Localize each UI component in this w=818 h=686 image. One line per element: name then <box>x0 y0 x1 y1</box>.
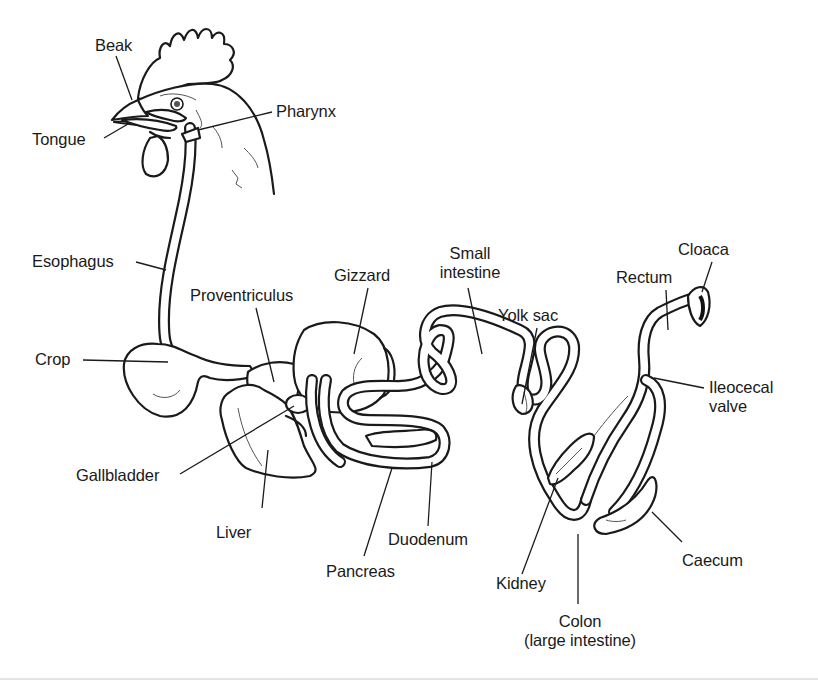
label-esophagus: Esophagus <box>32 252 114 271</box>
leader-caecum <box>652 512 682 542</box>
label-pancreas: Pancreas <box>326 562 395 581</box>
label-colon: Colon (large intestine) <box>510 612 650 650</box>
leader-duodenum <box>428 462 432 526</box>
label-crop: Crop <box>35 350 70 369</box>
leader-small-intestine <box>468 288 482 354</box>
label-proventriculus: Proventriculus <box>190 286 293 305</box>
label-kidney: Kidney <box>496 574 546 593</box>
leader-tongue <box>104 124 128 138</box>
label-caecum: Caecum <box>682 551 743 570</box>
label-ileocecal-line2: valve <box>709 397 773 416</box>
label-small-intestine-line1: Small <box>430 244 510 263</box>
label-colon-line2: (large intestine) <box>510 631 650 650</box>
label-duodenum: Duodenum <box>388 530 468 549</box>
label-pharynx: Pharynx <box>276 102 336 121</box>
leader-kidney <box>522 478 558 574</box>
label-ileocecal-valve: Ileocecal valve <box>709 378 773 416</box>
label-yolk-sac: Yolk sac <box>498 306 558 325</box>
label-cloaca: Cloaca <box>678 240 729 259</box>
label-rectum: Rectum <box>616 268 672 287</box>
label-liver: Liver <box>216 523 251 542</box>
digestive-tract <box>124 128 710 534</box>
label-beak: Beak <box>95 36 132 55</box>
label-gallbladder: Gallbladder <box>76 466 159 485</box>
label-ileocecal-line1: Ileocecal <box>709 378 773 397</box>
chicken-digestive-diagram: Beak Tongue Pharynx Esophagus Crop Prove… <box>0 0 818 686</box>
leader-beak <box>116 56 132 100</box>
label-gizzard: Gizzard <box>334 266 390 285</box>
label-colon-line1: Colon <box>510 612 650 631</box>
leader-esophagus <box>136 262 166 270</box>
bottom-rule <box>0 678 818 680</box>
diagram-drawing <box>0 0 818 686</box>
label-small-intestine-line2: intestine <box>430 263 510 282</box>
leader-cloaca <box>702 262 712 292</box>
label-small-intestine: Small intestine <box>430 244 510 282</box>
label-tongue: Tongue <box>32 130 86 149</box>
